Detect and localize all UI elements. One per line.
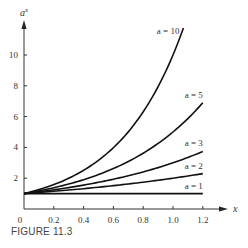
y-tick-label: 8 [14,81,19,91]
x-tick-label: 0 [18,215,23,225]
x-tick-label: 1.0 [167,215,179,225]
curve-label: a = 10 [157,26,180,36]
curve-a3 [24,151,203,193]
x-tick-label: 0.2 [48,215,59,225]
curve-a10 [24,28,183,194]
curve-label: a = 5 [185,90,204,100]
y-tick-label: 2 [14,173,19,183]
y-tick-label: 4 [14,142,19,152]
curves [24,28,203,194]
x-tick-label: 0.8 [138,215,150,225]
x-tick-label: 0.4 [78,215,90,225]
x-tick-label: 1.2 [197,215,208,225]
y-axis-label: ax [20,6,29,18]
y-axis-arrow-icon [22,20,27,29]
x-axis-label: x [232,203,238,214]
y-tick-label: 10 [9,50,19,60]
curve-label: a = 2 [185,161,203,171]
y-tick-label: 6 [14,112,19,122]
x-tick-label: 0.6 [108,215,120,225]
x-axis-arrow-icon [219,207,228,212]
curve-label: a = 3 [185,138,204,148]
exponential-chart: xax00.20.40.60.81.01.2246810 a = 1a = 2a… [0,0,248,248]
curve-label: a = 1 [185,181,203,191]
figure-caption: FIGURE 11.3 [11,226,72,237]
